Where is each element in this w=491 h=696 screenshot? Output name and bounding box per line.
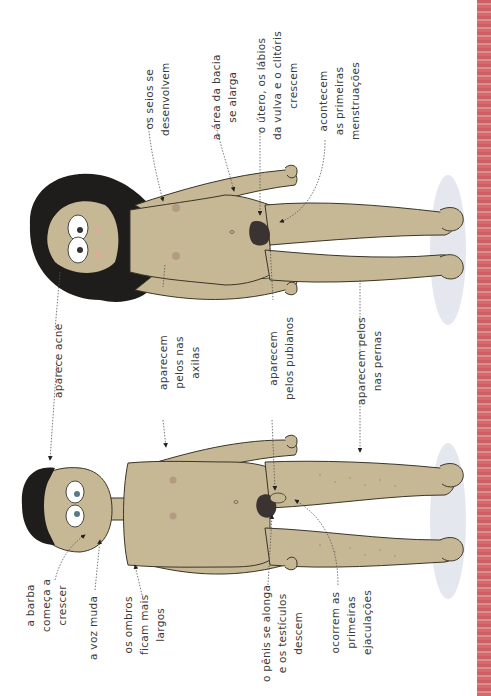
label-first-ejaculations: ocorrem as primeiras ejaculações <box>327 590 375 655</box>
label-line: ocorrem as <box>327 590 343 655</box>
label-line: axilas <box>187 335 203 390</box>
label-line: ficam mais <box>136 595 152 655</box>
label-line: os seios se <box>141 63 157 136</box>
label-line: aparece acne <box>50 323 66 398</box>
label-acne-appears: aparece acne <box>50 323 66 398</box>
label-line: o pênis se alonga <box>258 585 274 682</box>
label-line: ejaculações <box>359 590 375 655</box>
label-line: começa a <box>38 579 54 632</box>
label-shoulders-widen: os ombros ficam mais largos <box>120 595 168 655</box>
label-breasts-develop: os seios se desenvolvem <box>141 63 173 136</box>
label-armpit-hair: aparecem pelos nas axilas <box>155 335 203 390</box>
label-line: a área da bacia <box>208 54 224 140</box>
label-line: da vulva e o clitóris <box>269 31 285 140</box>
label-line: a voz muda <box>85 596 101 660</box>
label-line: se alarga <box>224 54 240 140</box>
label-line: aparecem <box>155 335 171 390</box>
female-figure <box>30 165 463 302</box>
label-line: primeiras <box>343 590 359 655</box>
label-line: descem <box>290 585 306 682</box>
puberty-diagram: os seios se desenvolvem a área da bacia … <box>0 0 491 696</box>
label-line: aparecem <box>265 317 281 400</box>
label-line: nas pernas <box>369 317 385 405</box>
label-beard-grows: a barba começa a crescer <box>22 579 70 632</box>
label-penis-testicles: o pênis se alonga e os testículos descem <box>258 585 306 682</box>
label-hips-widen: a área da bacia se alarga <box>208 54 240 140</box>
label-first-menstruation: acontecem as primeiras menstruações <box>315 62 363 140</box>
label-uterus-grows: o útero, os lábios da vulva e o clitóris… <box>253 31 301 140</box>
label-line: menstruações <box>347 62 363 140</box>
male-figure <box>22 435 463 574</box>
label-line: aparecem pelos <box>353 317 369 405</box>
label-line: pelos pubianos <box>281 317 297 400</box>
label-line: desenvolvem <box>157 63 173 136</box>
label-line: pelos nas <box>171 335 187 390</box>
label-line: acontecem <box>315 62 331 140</box>
label-pubic-hair: aparecem pelos pubianos <box>265 317 297 400</box>
label-voice-changes: a voz muda <box>85 596 101 660</box>
label-line: crescer <box>54 579 70 632</box>
label-line: e os testículos <box>274 585 290 682</box>
label-line: largos <box>152 595 168 655</box>
label-line: a barba <box>22 579 38 632</box>
illustration <box>0 0 491 696</box>
female-floor-shadow <box>430 175 466 325</box>
label-line: as primeiras <box>331 62 347 140</box>
label-line: os ombros <box>120 595 136 655</box>
label-leg-hair: aparecem pelos nas pernas <box>353 317 385 405</box>
label-line: crescem <box>285 31 301 140</box>
label-line: o útero, os lábios <box>253 31 269 140</box>
